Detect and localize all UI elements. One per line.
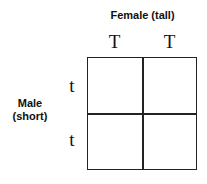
male-allele-2: t [64, 130, 80, 150]
cell-r1-c2 [143, 58, 197, 113]
grid-horizontal-divider [88, 113, 196, 115]
female-parent-label: Female (tall) [87, 9, 198, 21]
male-allele-1: t [64, 76, 80, 96]
male-label-line1: Male [4, 97, 56, 110]
cell-r2-c2 [143, 114, 197, 169]
cell-r1-c1 [88, 58, 142, 113]
female-allele-1: T [87, 32, 142, 52]
female-allele-2: T [142, 32, 197, 52]
male-parent-label: Male (short) [4, 97, 56, 123]
punnett-grid [87, 57, 197, 170]
cell-r2-c1 [88, 114, 142, 169]
male-label-line2: (short) [4, 110, 56, 123]
